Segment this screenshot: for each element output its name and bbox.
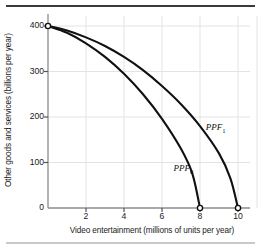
x-tick-label-10: 10 (227, 211, 249, 222)
x-tick-label-2: 2 (75, 211, 97, 222)
x-tick-label-6: 6 (151, 211, 173, 222)
annotation-base-text: PPF (173, 163, 190, 173)
gridlines-group (48, 16, 257, 208)
y-tick-label-0: 0 (16, 202, 44, 213)
x-tick-text: 4 (113, 211, 135, 221)
annotation-base-text: PPF (206, 122, 223, 132)
ppf-chart-figure: Other goods and services (billions per y… (0, 0, 261, 250)
y-tick-text: 400 (16, 20, 44, 30)
annotation-subscript: 0 (190, 168, 193, 175)
ppf1-label: PPF1 (206, 122, 226, 134)
y-axis-label: Other goods and services (billions per y… (4, 12, 18, 208)
x-tick-text: 8 (189, 211, 211, 221)
ppf0-label: PPF0 (173, 163, 193, 175)
axes-group (48, 14, 250, 208)
y-tick-label-400: 400 (16, 20, 44, 31)
y-tick-label-100: 100 (16, 157, 44, 168)
x-axis-label: Video entertainment (millions of units p… (48, 226, 256, 235)
x-tick-label-8: 8 (189, 211, 211, 222)
annotation-subscript: 1 (222, 127, 225, 134)
x-tick-label-4: 4 (113, 211, 135, 222)
tick-marks-group (44, 26, 238, 212)
x-tick-text: 2 (75, 211, 97, 221)
y-tick-text: 0 (16, 202, 44, 212)
y-tick-text: 200 (16, 111, 44, 121)
y-tick-text: 100 (16, 157, 44, 167)
x-tick-text: 6 (151, 211, 173, 221)
y-tick-label-300: 300 (16, 66, 44, 77)
bottom-divider-rule (6, 242, 255, 244)
x-tick-text: 10 (227, 211, 249, 221)
top-divider-rule (6, 5, 255, 7)
y-tick-text: 300 (16, 66, 44, 76)
y-tick-label-200: 200 (16, 111, 44, 122)
